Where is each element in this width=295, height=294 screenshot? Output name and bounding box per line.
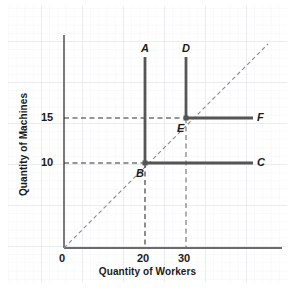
y-axis-title: Quantity of Machines (18, 60, 29, 230)
vertex-point-E (184, 116, 189, 121)
expansion-path-ray (64, 44, 268, 248)
x-tick-label-0: 0 (59, 252, 65, 264)
x-tick-label-30: 30 (178, 252, 190, 264)
y-tick-label-10: 10 (41, 156, 53, 168)
point-label-a: A (141, 42, 149, 54)
x-axis-title: Quantity of Workers (0, 266, 295, 277)
chart-figure: Quantity of Workers Quantity of Machines… (0, 0, 295, 294)
point-label-e: E (177, 122, 184, 134)
vertex-point-B (143, 161, 148, 166)
point-label-c: C (257, 156, 265, 168)
point-label-b: B (136, 167, 144, 179)
point-label-f: F (257, 111, 264, 123)
point-label-d: D (182, 42, 190, 54)
y-tick-label-15: 15 (41, 111, 53, 123)
x-tick-label-20: 20 (137, 252, 149, 264)
